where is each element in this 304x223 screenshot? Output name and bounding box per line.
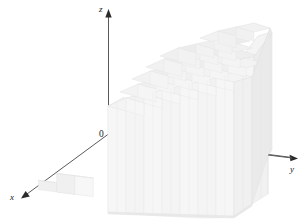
bar-row [38, 173, 93, 196]
axis-z-arrowhead [105, 9, 111, 18]
axis-x-label: x [9, 192, 14, 202]
axis-y-label: y [289, 164, 294, 174]
figure-canvas: z y x 0 [0, 0, 304, 223]
three-d-bar-chart: z y x 0 [0, 0, 304, 223]
axis-z-label: z [98, 4, 103, 14]
origin-label: 0 [99, 129, 104, 139]
axis-y-overlay [268, 155, 292, 158]
axis-x-arrowhead [21, 191, 30, 199]
axis-y-visible-segment [268, 155, 292, 158]
bar-block [38, 23, 272, 218]
